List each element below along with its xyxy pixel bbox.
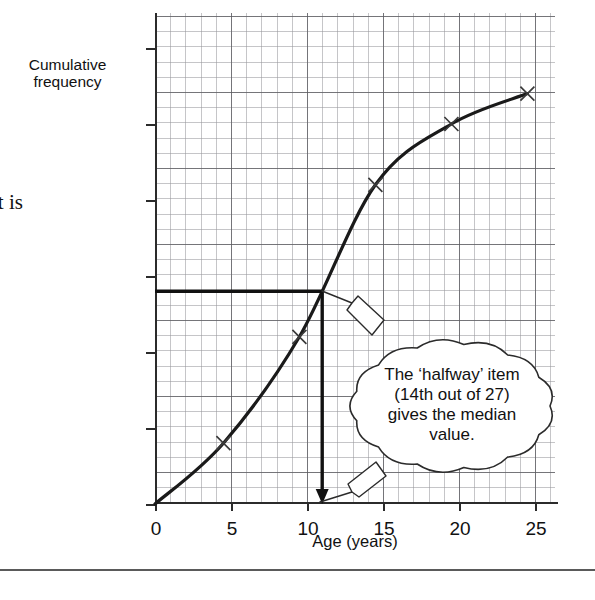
x-axis-title: Age (years): [155, 532, 555, 551]
x-axis-line: [155, 502, 558, 504]
y-tick: [146, 504, 155, 506]
x-tick: [231, 502, 233, 511]
plot-grid: [155, 13, 555, 504]
y-tick: [146, 48, 155, 50]
x-tick: [155, 502, 157, 511]
figure-page: it is n Cumulative frequency 05101520253…: [0, 0, 595, 600]
y-tick: [146, 276, 155, 278]
y-axis-caption-line-1: Cumulative: [0, 56, 135, 73]
x-tick: [459, 502, 461, 511]
y-axis-caption-line-2: frequency: [0, 73, 135, 90]
cumulative-frequency-chart: 0510152025300510152025: [155, 13, 555, 504]
x-tick: [383, 502, 385, 511]
page-bottom-rule: [0, 569, 595, 571]
y-axis-line: [155, 13, 157, 507]
y-tick: [146, 352, 155, 354]
y-tick: [146, 124, 155, 126]
x-tick: [307, 502, 309, 511]
x-tick: [535, 502, 537, 511]
plot-right-mask: [555, 13, 557, 504]
y-tick: [146, 200, 155, 202]
body-text-line-1: it is: [0, 188, 23, 216]
y-axis-caption: Cumulative frequency: [0, 56, 135, 91]
y-tick: [146, 428, 155, 430]
